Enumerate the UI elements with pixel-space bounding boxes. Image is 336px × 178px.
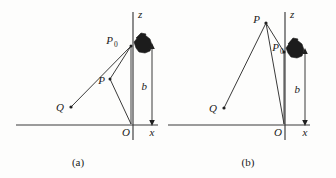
label-origin-a: O xyxy=(122,126,130,138)
ray-p0-to-p-a xyxy=(110,46,131,79)
label-b-b: b xyxy=(295,83,301,95)
label-p-a: P xyxy=(97,74,105,86)
point-p0-dot-a xyxy=(130,45,133,48)
label-x-axis-a: x xyxy=(149,126,155,138)
point-p-dot-b xyxy=(264,21,267,24)
label-z-axis-b: z xyxy=(289,8,295,20)
label-p0-b: P xyxy=(271,41,279,53)
label-q-b: Q xyxy=(209,102,217,114)
charge-distribution-blob-a xyxy=(134,33,152,53)
figure-root: P 0 P Q z x O b P P 0 xyxy=(0,0,336,178)
caption-panel-b: (b) xyxy=(218,156,278,168)
label-p0-subscript-b: 0 xyxy=(280,47,284,56)
label-origin-b: O xyxy=(274,126,282,138)
point-q-dot-b xyxy=(222,106,225,109)
label-p0-a: P xyxy=(105,34,113,46)
panel-b: P P 0 Q z x O b xyxy=(168,0,336,178)
point-q-dot-a xyxy=(69,105,72,108)
ray-p-to-o-a xyxy=(110,79,131,124)
label-q-a: Q xyxy=(56,101,64,113)
label-p0-subscript-a: 0 xyxy=(114,40,118,49)
label-p-b: P xyxy=(252,13,260,25)
panel-a: P 0 P Q z x O b xyxy=(0,0,168,178)
caption-panel-a: (a) xyxy=(48,156,108,168)
label-b-a: b xyxy=(142,80,148,92)
ray-p-to-q-b xyxy=(224,23,266,108)
charge-distribution-blob-b xyxy=(286,38,304,58)
point-p-dot-a xyxy=(109,78,112,81)
label-x-axis-b: x xyxy=(302,126,308,138)
label-z-axis-a: z xyxy=(137,8,143,20)
